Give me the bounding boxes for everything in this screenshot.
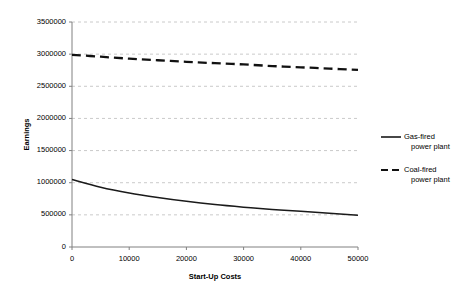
y-tick-label: 3500000 — [0, 18, 66, 26]
x-tick-label: 20000 — [156, 255, 216, 263]
x-tick-label: 30000 — [214, 255, 274, 263]
y-tick-label: 500000 — [0, 210, 66, 218]
series-line-gas-fired — [72, 180, 358, 216]
chart-container: 0500000100000015000002000000250000030000… — [0, 0, 471, 301]
axis-lines-group — [72, 22, 358, 247]
legend-label-line1: Gas-fired — [404, 132, 450, 142]
x-axis-title: Start-Up Costs — [155, 272, 275, 281]
y-tick-label: 1500000 — [0, 146, 66, 154]
legend-item-coal-fired: Coal-fired power plant — [404, 165, 450, 184]
legend-label-line2: power plant — [404, 175, 450, 185]
x-tick-label: 40000 — [271, 255, 331, 263]
data-series-group — [72, 55, 358, 215]
x-tick-label: 50000 — [328, 255, 388, 263]
gridlines-group — [72, 22, 358, 215]
legend-label-line2: power plant — [404, 142, 450, 152]
legend-item-gas-fired: Gas-fired power plant — [404, 132, 450, 151]
legend-label-line1: Coal-fired — [404, 165, 450, 175]
y-tick-label: 0 — [0, 243, 66, 251]
series-line-coal-fired — [72, 55, 358, 70]
y-axis-title: Earnings — [22, 94, 31, 174]
x-tick-label: 0 — [42, 255, 102, 263]
y-tick-label: 2000000 — [0, 114, 66, 122]
y-tick-label: 1000000 — [0, 178, 66, 186]
y-tick-label: 2500000 — [0, 82, 66, 90]
legend-swatches-group — [381, 137, 401, 170]
x-tick-label: 10000 — [99, 255, 159, 263]
y-tick-label: 3000000 — [0, 50, 66, 58]
